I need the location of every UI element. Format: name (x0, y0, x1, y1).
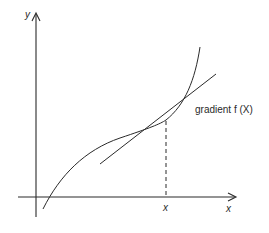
y-axis-label: y (25, 10, 30, 20)
tangent-gradient-label: gradient f (X) (195, 105, 253, 115)
y-axis (32, 13, 40, 217)
tangent-line (100, 74, 216, 164)
diagram-canvas (0, 0, 269, 233)
point-x-label: x (163, 203, 168, 213)
x-axis-label: x (226, 204, 231, 214)
function-curve (43, 47, 200, 209)
